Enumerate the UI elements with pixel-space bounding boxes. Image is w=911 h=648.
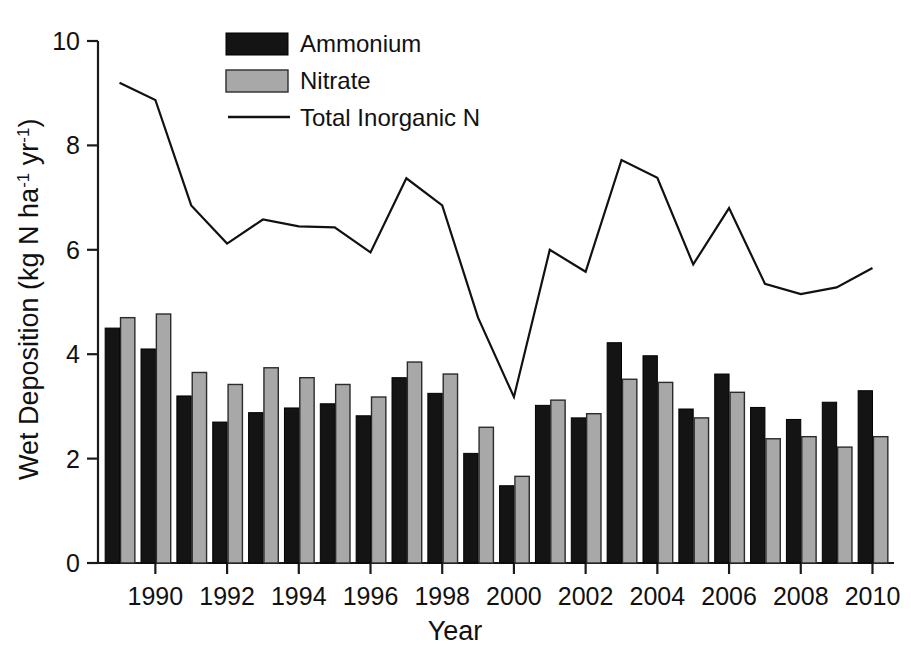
x-tick-label: 2000 bbox=[486, 582, 542, 610]
bar-nitrate bbox=[372, 397, 386, 563]
bar-nitrate bbox=[156, 314, 170, 563]
bar-ammonium bbox=[822, 402, 836, 563]
bar-ammonium bbox=[679, 409, 693, 563]
bar-ammonium bbox=[751, 407, 765, 563]
bar-ammonium bbox=[428, 393, 442, 563]
bar-ammonium bbox=[464, 453, 478, 563]
legend-swatch-ammonium bbox=[226, 33, 288, 55]
bar-nitrate bbox=[443, 374, 457, 563]
y-axis-title-main: Wet Deposition (kg N ha bbox=[14, 187, 44, 480]
x-tick-label: 2004 bbox=[630, 582, 686, 610]
bar-ammonium bbox=[643, 356, 657, 563]
bar-ammonium bbox=[320, 404, 334, 563]
y-axis-ticks: 0246810 bbox=[52, 27, 98, 577]
bar-nitrate bbox=[264, 368, 278, 563]
bar-ammonium bbox=[715, 374, 729, 563]
y-tick-label: 4 bbox=[66, 340, 80, 368]
chart-canvas: Wet Deposition (kg N ha-1 yr-1) Year 024… bbox=[0, 0, 911, 648]
bar-nitrate bbox=[407, 362, 421, 563]
bar-nitrate bbox=[551, 400, 565, 563]
legend-label-total-inorganic-n: Total Inorganic N bbox=[300, 104, 480, 131]
x-axis-title: Year bbox=[428, 616, 483, 646]
x-tick-label: 2002 bbox=[558, 582, 614, 610]
y-axis-title-sup1: -1 bbox=[14, 173, 33, 188]
svg-text:Wet Deposition (kg N ha-1 yr-1: Wet Deposition (kg N ha-1 yr-1) bbox=[14, 119, 44, 480]
x-tick-label: 1990 bbox=[128, 582, 184, 610]
x-tick-label: 1998 bbox=[414, 582, 470, 610]
bar-ammonium bbox=[392, 378, 406, 563]
bar-nitrate bbox=[479, 427, 493, 563]
bar-ammonium bbox=[213, 422, 227, 563]
bar-nitrate bbox=[802, 437, 816, 563]
bar-ammonium bbox=[858, 391, 872, 563]
bar-ammonium bbox=[105, 328, 119, 563]
bar-ammonium bbox=[786, 419, 800, 563]
x-tick-label: 1994 bbox=[271, 582, 327, 610]
x-tick-label: 1992 bbox=[199, 582, 255, 610]
x-tick-label: 2008 bbox=[773, 582, 829, 610]
x-tick-label: 2006 bbox=[701, 582, 757, 610]
bar-ammonium bbox=[535, 405, 549, 563]
y-axis-title: Wet Deposition (kg N ha-1 yr-1) bbox=[14, 119, 44, 480]
bar-nitrate bbox=[873, 437, 887, 563]
x-tick-label: 2010 bbox=[845, 582, 901, 610]
bar-nitrate bbox=[694, 418, 708, 563]
bar-ammonium bbox=[356, 416, 370, 563]
legend-label-nitrate: Nitrate bbox=[300, 67, 371, 94]
y-tick-label: 2 bbox=[66, 445, 80, 473]
y-axis-title-sup2: -1 bbox=[14, 128, 33, 143]
bar-nitrate bbox=[730, 392, 744, 563]
y-tick-label: 6 bbox=[66, 236, 80, 264]
bar-nitrate bbox=[658, 382, 672, 563]
total-inorganic-n-line-group bbox=[120, 83, 873, 397]
bar-nitrate bbox=[587, 414, 601, 563]
legend-label-ammonium: Ammonium bbox=[300, 30, 421, 57]
bar-nitrate bbox=[300, 378, 314, 563]
y-tick-label: 8 bbox=[66, 131, 80, 159]
bar-nitrate bbox=[838, 447, 852, 563]
x-axis-ticks: 1990199219941996199820002002200420062008… bbox=[128, 563, 901, 610]
y-tick-label: 0 bbox=[66, 549, 80, 577]
bar-nitrate bbox=[622, 379, 636, 563]
bar-ammonium bbox=[284, 408, 298, 563]
bar-nitrate bbox=[121, 318, 135, 563]
bar-ammonium bbox=[500, 486, 514, 563]
y-axis-title-end: ) bbox=[14, 119, 44, 128]
bar-ammonium bbox=[607, 343, 621, 563]
legend-swatch-nitrate bbox=[226, 70, 288, 92]
y-tick-label: 10 bbox=[52, 27, 80, 55]
bar-ammonium bbox=[141, 349, 155, 563]
bar-nitrate bbox=[515, 476, 529, 563]
bar-ammonium bbox=[249, 413, 263, 563]
wet-deposition-chart: Wet Deposition (kg N ha-1 yr-1) Year 024… bbox=[0, 0, 911, 648]
chart-legend: Ammonium Nitrate Total Inorganic N bbox=[226, 30, 480, 131]
bar-nitrate bbox=[192, 372, 206, 563]
bar-nitrate bbox=[228, 384, 242, 563]
x-tick-label: 1996 bbox=[343, 582, 399, 610]
bar-ammonium bbox=[571, 418, 585, 563]
y-axis-title-mid: yr bbox=[14, 143, 44, 173]
bar-nitrate bbox=[336, 384, 350, 563]
total-inorganic-n-line bbox=[120, 83, 873, 397]
bar-nitrate bbox=[766, 439, 780, 563]
bar-ammonium bbox=[177, 396, 191, 563]
